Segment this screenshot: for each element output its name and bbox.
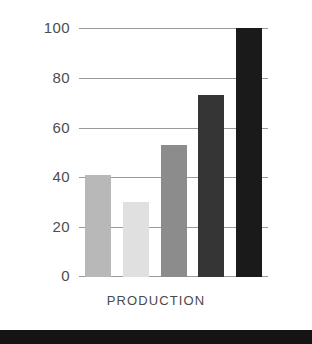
bar-3 bbox=[161, 145, 187, 277]
ytick-label-20: 20 bbox=[10, 219, 70, 234]
ytick-label-60: 60 bbox=[10, 120, 70, 135]
bar-2 bbox=[123, 202, 149, 277]
bar-1 bbox=[85, 175, 111, 277]
bottom-band-decoration bbox=[0, 330, 312, 344]
x-axis-label: PRODUCTION bbox=[0, 293, 312, 308]
plot-area bbox=[79, 28, 268, 277]
bar-4 bbox=[198, 95, 224, 277]
ytick-label-0: 0 bbox=[10, 268, 70, 283]
ytick-label-100: 100 bbox=[10, 20, 70, 35]
bar-series bbox=[79, 28, 268, 277]
ytick-label-40: 40 bbox=[10, 169, 70, 184]
bar-5 bbox=[236, 28, 262, 277]
ytick-label-80: 80 bbox=[10, 70, 70, 85]
bar-chart-figure: 100 80 60 40 20 0 PRODUCTION bbox=[0, 0, 312, 318]
